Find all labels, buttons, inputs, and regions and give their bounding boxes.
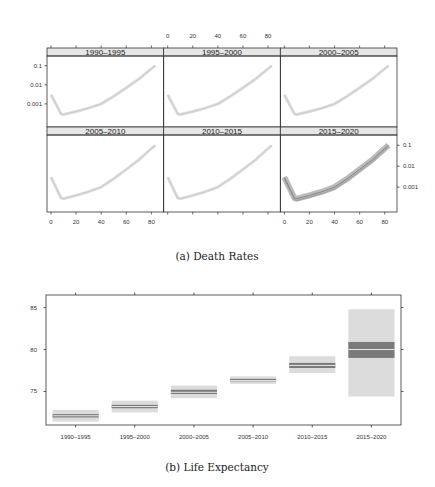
death-rate-curve (284, 66, 388, 115)
x-tick-label: 2010–2015 (297, 434, 328, 440)
panel-2010-2015: 2010–2015 (164, 127, 281, 212)
caption-life-expectancy: (b) Life Expectancy (165, 461, 269, 473)
x-tick-label: 2005–2010 (238, 434, 269, 440)
death-rates-chart: 1990–19951995–20002000–20052005–20102010… (27, 33, 419, 225)
panel-frame (47, 56, 164, 127)
x-tick-label: 40 (331, 219, 338, 225)
x-tick-label: 20 (73, 219, 80, 225)
x-tick-label: 80 (148, 219, 155, 225)
chart-canvas: 1990–19951995–20002000–20052005–20102010… (0, 0, 435, 487)
y-tick-label: 0.01 (403, 163, 415, 169)
plot-frame (46, 295, 401, 425)
death-rate-curve (168, 145, 272, 198)
box-1990-1995 (53, 410, 99, 422)
death-rate-curve (284, 145, 388, 198)
x-tick-label: 40 (215, 33, 222, 39)
death-rate-curve (51, 66, 155, 115)
y-tick-label: 85 (30, 305, 37, 311)
death-rate-curve (168, 66, 272, 115)
panel-1995-2000: 1995–2000 (164, 48, 281, 127)
x-tick-label: 20 (189, 33, 196, 39)
x-tick-label: 60 (356, 219, 363, 225)
caption-death-rates: (a) Death Rates (175, 250, 258, 262)
box-2015-2020 (348, 309, 394, 396)
death-rate-curve (51, 145, 155, 198)
panel-strip-label: 2015–2020 (319, 127, 360, 136)
uncertainty-band (51, 145, 155, 198)
panel-1990-1995: 1990–1995 (47, 48, 164, 127)
panel-strip-label: 2000–2005 (319, 48, 360, 57)
x-tick-label: 20 (306, 219, 313, 225)
y-tick-label: 0.1 (403, 142, 412, 148)
panel-strip-label: 2010–2015 (202, 127, 243, 136)
x-tick-label: 80 (381, 219, 388, 225)
panel-strip-label: 2005–2010 (85, 127, 126, 136)
x-tick-label: 1995–2000 (120, 434, 151, 440)
panel-frame (47, 135, 164, 212)
x-tick-label: 60 (123, 219, 130, 225)
x-tick-label: 2000–2005 (179, 434, 210, 440)
box-2005-2010 (230, 376, 276, 384)
x-tick-label: 80 (265, 33, 272, 39)
y-tick-label: 75 (30, 388, 37, 394)
panel-2015-2020: 2015–2020 (280, 127, 397, 212)
uncertainty-band (168, 145, 272, 198)
panel-frame (164, 56, 281, 127)
uncertainty-band (51, 66, 155, 115)
y-tick-label: 0.01 (30, 82, 42, 88)
panel-2005-2010: 2005–2010 (47, 127, 164, 212)
x-tick-label: 40 (98, 219, 105, 225)
x-tick-label: 60 (240, 33, 247, 39)
uncertainty-band (284, 66, 388, 115)
panel-frame (280, 56, 397, 127)
y-tick-label: 0.001 (27, 101, 43, 107)
x-tick-label: 1990–1995 (61, 434, 92, 440)
x-tick-label: 0 (49, 219, 53, 225)
y-tick-label: 0.001 (403, 184, 419, 190)
panel-strip-label: 1995–2000 (202, 48, 243, 57)
life-expectancy-chart: 1990–19951995–20002000–20052005–20102010… (30, 293, 403, 441)
x-tick-label: 0 (166, 33, 170, 39)
y-tick-label: 0.1 (34, 63, 43, 69)
box-2000-2005 (171, 386, 217, 399)
panel-2000-2005: 2000–2005 (280, 48, 397, 127)
uncertainty-band (168, 66, 272, 115)
box-1995-2000 (112, 401, 158, 413)
y-tick-label: 80 (30, 347, 37, 353)
panel-frame (164, 135, 281, 212)
uncertainty-band (284, 145, 388, 198)
box-2010-2015 (289, 356, 335, 373)
x-tick-label: 2015–2020 (356, 434, 387, 440)
panel-strip-label: 1990–1995 (85, 48, 126, 57)
death-rate-curve-lower (284, 147, 388, 200)
x-tick-label: 0 (283, 219, 287, 225)
